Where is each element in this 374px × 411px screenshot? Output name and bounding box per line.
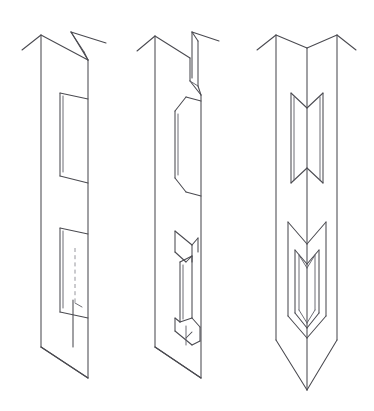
drawing-background: [0, 0, 374, 411]
technical-drawing-canvas: [0, 0, 374, 411]
line-drawing-svg: [0, 0, 374, 411]
